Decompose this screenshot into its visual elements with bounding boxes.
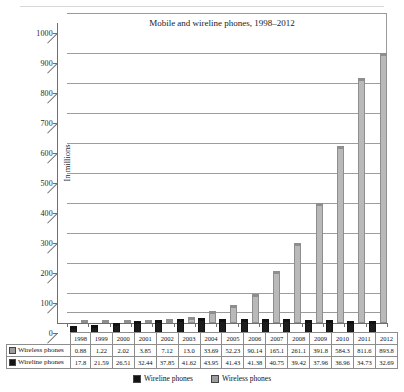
- table-cell: 7.12: [156, 345, 178, 357]
- table-cell: 37.85: [156, 357, 178, 369]
- table-column-header: 2002: [156, 333, 178, 345]
- table-cell: 90.14: [244, 345, 266, 357]
- table-cell: 37.96: [310, 357, 332, 369]
- x-tick: [131, 323, 132, 327]
- bar-top-cap: [145, 320, 152, 322]
- bar-wireless: [316, 205, 323, 323]
- legend-color-swatch-icon: [211, 375, 219, 383]
- x-tick: [195, 323, 196, 327]
- table-column-header: 2009: [310, 333, 332, 345]
- table-cell: 391.8: [310, 345, 332, 357]
- series-color-swatch-icon: [9, 347, 16, 354]
- x-tick: [302, 323, 303, 327]
- table-column-header: 2003: [178, 333, 200, 345]
- bar-wireless: [337, 148, 344, 323]
- table-column-header: 1998: [71, 333, 91, 345]
- table-cell: 17.8: [71, 357, 91, 369]
- bar-wireless: [188, 319, 195, 323]
- x-tick: [110, 323, 111, 327]
- table-cell: 21.59: [90, 357, 112, 369]
- table-header-row: 1998199920002001200220032004200520062007…: [7, 333, 398, 345]
- table-corner-cell: [7, 333, 71, 345]
- bar-top-cap: [369, 321, 376, 323]
- table-column-header: 2000: [112, 333, 134, 345]
- x-tick: [67, 323, 68, 327]
- table-cell: 32.44: [134, 357, 156, 369]
- bar-face: [188, 319, 195, 323]
- y-tick-label: 500: [40, 179, 53, 188]
- bar-top-cap: [177, 319, 184, 321]
- table-cell: 40.75: [266, 357, 288, 369]
- x-tick: [88, 323, 89, 327]
- table-row: Wireline phones17.821.5926.5132.4437.854…: [7, 357, 398, 369]
- y-tick-label: 600: [40, 149, 53, 158]
- table-column-header: 2005: [222, 333, 244, 345]
- bar-wireless: [358, 80, 365, 323]
- bar-face: [166, 321, 173, 323]
- table-row-header: Wireless phones: [7, 345, 71, 357]
- bar-top-cap: [198, 318, 205, 320]
- legend-item: Wireless phones: [211, 374, 271, 383]
- table-row-header: Wireline phones: [7, 357, 71, 369]
- bar-top-cap: [347, 321, 354, 323]
- legend-label: Wireless phones: [222, 374, 271, 383]
- bar-top-cap: [124, 320, 131, 322]
- table-column-header: 1999: [90, 333, 112, 345]
- bar-top-cap: [358, 78, 365, 80]
- table-cell: 41.43: [222, 357, 244, 369]
- table-cell: 3.85: [134, 345, 156, 357]
- y-tick-label: 300: [40, 239, 53, 248]
- table-cell: 584.3: [332, 345, 354, 357]
- bar-top-cap: [305, 320, 312, 322]
- bar-top-cap: [294, 243, 301, 245]
- x-tick: [152, 323, 153, 327]
- table-cell: 36.96: [332, 357, 354, 369]
- x-tick: [344, 323, 345, 327]
- table-column-header: 2011: [353, 333, 375, 345]
- y-tick-label: 100: [40, 299, 53, 308]
- table-cell: 41.62: [178, 357, 200, 369]
- bar-face: [294, 245, 301, 323]
- bar-face: [273, 273, 280, 323]
- table-cell: 34.73: [353, 357, 375, 369]
- bar-face: [316, 205, 323, 323]
- bar-wireless: [145, 322, 152, 324]
- bar-wireless: [252, 296, 259, 323]
- bar-top-cap: [70, 326, 77, 328]
- bar-wireless: [102, 322, 109, 324]
- bar-top-cap: [209, 311, 216, 313]
- bar-top-cap: [166, 319, 173, 321]
- legend-label: Wireline phones: [144, 374, 193, 383]
- x-tick: [323, 323, 324, 327]
- x-tick: [216, 323, 217, 327]
- chart-figure: Mobile and wireline phones, 1998–2012 In…: [0, 0, 404, 392]
- table-cell: 43.95: [200, 357, 222, 369]
- table-column-header: 2006: [244, 333, 266, 345]
- bar-top-cap: [134, 321, 141, 323]
- bar-wireless: [230, 307, 237, 323]
- data-table: 1998199920002001200220032004200520062007…: [6, 332, 398, 369]
- x-tick: [366, 323, 367, 327]
- x-tick: [387, 323, 388, 327]
- table-column-header: 2001: [134, 333, 156, 345]
- bar-top-cap: [316, 203, 323, 205]
- table-cell: 33.69: [200, 345, 222, 357]
- series-color-swatch-icon: [9, 359, 16, 366]
- bar-top-cap: [273, 271, 280, 273]
- table-column-header: 2007: [266, 333, 288, 345]
- bar-top-cap: [262, 319, 269, 321]
- bar-face: [209, 313, 216, 323]
- bar-top-cap: [155, 320, 162, 322]
- bar-top-cap: [326, 320, 333, 322]
- bar-wireless: [81, 322, 88, 324]
- x-tick: [259, 323, 260, 327]
- x-tick: [280, 323, 281, 327]
- y-tick-label: 1000: [36, 29, 53, 38]
- table-cell: 811.6: [353, 345, 375, 357]
- bar-top-cap: [219, 319, 226, 321]
- bar-wireless: [294, 245, 301, 323]
- bar-top-cap: [241, 319, 248, 321]
- bar-wireless: [124, 322, 131, 324]
- table-column-header: 2008: [288, 333, 310, 345]
- bar-face: [230, 307, 237, 323]
